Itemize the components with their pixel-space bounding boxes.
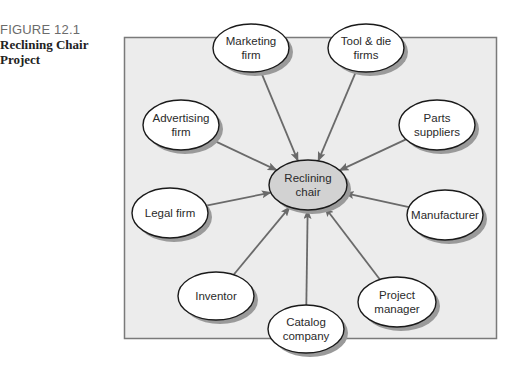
node-ellipse <box>268 305 344 353</box>
node-label: firm <box>241 49 260 61</box>
node-label: Manufacturer <box>411 209 479 221</box>
node-ellipse <box>213 24 289 72</box>
node-ellipse <box>143 100 219 150</box>
stakeholder-diagram: MarketingfirmTool & diefirmsPartssupplie… <box>0 0 513 377</box>
node-label: manager <box>374 303 420 315</box>
node-ellipse <box>328 24 404 72</box>
node-label: Tool & die <box>341 35 392 47</box>
node-ellipse <box>399 100 475 150</box>
node-ellipse <box>269 160 347 210</box>
node-label: Catalog <box>286 316 326 328</box>
node-label: company <box>283 330 330 342</box>
node-label: Inventor <box>195 290 237 302</box>
node-label: Parts <box>424 112 451 124</box>
node-label: Legal firm <box>145 207 196 219</box>
node-label: Project <box>379 289 416 301</box>
node-label: firm <box>171 126 190 138</box>
node-label: firms <box>354 49 379 61</box>
node-label: Reclining <box>284 172 331 184</box>
node-label: suppliers <box>414 126 460 138</box>
node-label: Advertising <box>153 112 210 124</box>
node-label: Marketing <box>226 35 277 47</box>
node-ellipse <box>358 277 436 327</box>
node-label: chair <box>296 186 321 198</box>
